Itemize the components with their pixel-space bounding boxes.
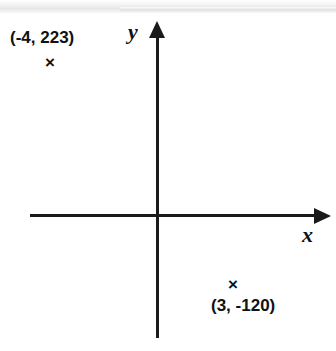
point-b-coordinate-label: (3, -120) <box>211 297 275 314</box>
point-a-x-marker-icon: × <box>45 54 55 71</box>
y-axis-arrow-icon <box>149 21 165 38</box>
x-axis-label: x <box>302 224 313 246</box>
scan-artifact-band-inner <box>120 7 336 13</box>
x-axis-line <box>30 214 322 217</box>
coordinate-plane-figure: y x (-4, 223) × × (3, -120) <box>0 0 336 351</box>
point-b-x-marker-icon: × <box>228 276 238 293</box>
y-axis-line <box>156 30 159 338</box>
point-a-coordinate-label: (-4, 223) <box>10 29 74 46</box>
x-axis-arrow-icon <box>314 208 331 224</box>
y-axis-label: y <box>128 21 138 43</box>
